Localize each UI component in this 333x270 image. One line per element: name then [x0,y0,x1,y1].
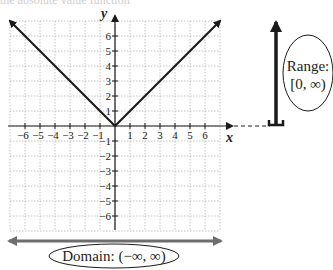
y-tick-label: 3 [106,75,112,87]
y-tick-label: 4 [106,60,112,72]
y-tick-label: −6 [99,210,111,222]
x-tick-label: −2 [77,129,89,141]
y-tick-label: −4 [99,180,111,192]
y-tick-label: −5 [99,195,111,207]
y-tick-label: 5 [106,45,112,57]
x-tick-label: −5 [32,129,44,141]
x-tick-label: −3 [62,129,74,141]
y-axis-label: y [99,6,108,21]
right-branch [115,21,220,126]
x-tick-label: 2 [142,129,148,141]
x-tick-label: 5 [187,129,193,141]
domain-label: Domain: (−∞, ∞) [62,248,166,265]
range-label-line1: Range: [287,58,330,74]
y-tick-label: 6 [106,30,112,42]
x-tick-label: −6 [17,129,29,141]
absolute-value-graph: y x −6−5−4−3−2−1123456654321−1−2−3−4−5−6… [0,0,333,270]
left-branch [10,21,115,126]
x-tick-label: 3 [157,129,163,141]
x-tick-label: 1 [127,129,133,141]
x-axis-label: x [225,130,233,145]
y-tick-label: −1 [99,135,111,147]
x-tick-label: 6 [202,129,208,141]
y-tick-label: 1 [106,105,112,117]
x-tick-label: −4 [47,129,59,141]
x-tick-label: 4 [172,129,178,141]
y-tick-label: 2 [106,90,112,102]
y-tick-label: −3 [99,165,111,177]
range-label-line2: [0, ∞) [290,76,326,93]
y-tick-label: −2 [99,150,111,162]
